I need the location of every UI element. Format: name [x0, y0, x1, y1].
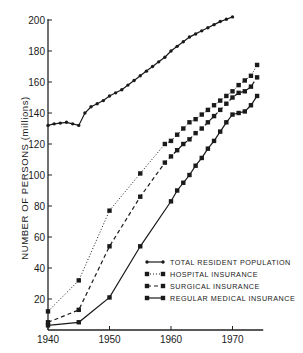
- data-point: [71, 122, 74, 125]
- data-point: [77, 124, 80, 127]
- data-point: [52, 122, 55, 125]
- data-point: [107, 244, 111, 248]
- data-point: [169, 49, 172, 52]
- data-point: [200, 126, 204, 130]
- data-point: [206, 108, 210, 112]
- data-point: [224, 102, 228, 106]
- data-point: [46, 124, 49, 127]
- data-point: [249, 103, 253, 107]
- data-point: [139, 74, 142, 77]
- data-point: [255, 63, 259, 67]
- data-point: [187, 137, 191, 141]
- data-point: [157, 60, 160, 63]
- data-point: [206, 146, 210, 150]
- y-axis-label: NUMBER OF PERSONS (millions): [19, 96, 30, 260]
- data-point: [249, 84, 253, 88]
- data-point: [46, 323, 50, 327]
- legend-marker: [161, 272, 165, 276]
- data-point: [175, 188, 179, 192]
- data-point: [77, 308, 81, 312]
- data-point: [200, 29, 203, 32]
- data-point: [193, 131, 197, 135]
- data-point: [107, 208, 111, 212]
- data-point: [151, 65, 154, 68]
- series-3: [46, 94, 259, 328]
- legend-label: REGULAR MEDICAL INSURANCE: [170, 294, 295, 303]
- data-point: [175, 45, 178, 48]
- data-point: [187, 120, 191, 124]
- data-point: [181, 181, 185, 185]
- data-point: [138, 195, 142, 199]
- data-point: [206, 120, 210, 124]
- legend-marker: [145, 272, 149, 276]
- data-point: [243, 78, 247, 82]
- data-point: [236, 111, 240, 115]
- legend-marker: [161, 296, 165, 300]
- legend-marker: [145, 284, 149, 288]
- y-tick-label: 200: [28, 15, 45, 26]
- data-point: [77, 278, 81, 282]
- legend-label: HOSPITAL INSURANCE: [170, 270, 258, 279]
- data-point: [114, 91, 117, 94]
- x-tick-label: 1960: [160, 334, 183, 345]
- data-point: [138, 244, 142, 248]
- data-point: [212, 23, 215, 26]
- data-point: [236, 91, 240, 95]
- chart: 2040608010012014016018020019401950196019…: [0, 0, 303, 353]
- data-point: [230, 112, 234, 116]
- data-point: [230, 95, 234, 99]
- y-tick-label: 80: [34, 201, 46, 212]
- series-lines: [46, 15, 259, 327]
- data-point: [206, 26, 209, 29]
- x-tick-label: 1950: [98, 334, 121, 345]
- data-point: [89, 105, 92, 108]
- data-point: [169, 154, 173, 158]
- data-point: [249, 74, 253, 78]
- y-tick-label: 60: [34, 232, 46, 243]
- legend-marker: [145, 260, 148, 263]
- data-point: [231, 15, 234, 18]
- data-point: [200, 156, 204, 160]
- data-point: [96, 102, 99, 105]
- data-point: [169, 139, 173, 143]
- data-point: [108, 94, 111, 97]
- data-point: [163, 56, 166, 59]
- data-point: [175, 133, 179, 137]
- data-point: [243, 89, 247, 93]
- y-tick-label: 100: [28, 170, 45, 181]
- data-point: [224, 120, 228, 124]
- data-point: [169, 199, 173, 203]
- data-point: [200, 112, 204, 116]
- data-point: [236, 83, 240, 87]
- data-point: [212, 139, 216, 143]
- data-point: [83, 111, 86, 114]
- data-point: [212, 114, 216, 118]
- data-point: [187, 173, 191, 177]
- legend-marker: [161, 284, 165, 288]
- y-tick-label: 160: [28, 77, 45, 88]
- data-point: [163, 142, 167, 146]
- x-tick-label: 1940: [37, 334, 60, 345]
- data-point: [193, 164, 197, 168]
- legend: TOTAL RESIDENT POPULATIONHOSPITAL INSURA…: [145, 258, 295, 303]
- data-point: [243, 109, 247, 113]
- data-point: [219, 20, 222, 23]
- data-point: [218, 129, 222, 133]
- data-point: [46, 309, 50, 313]
- data-point: [218, 108, 222, 112]
- data-point: [181, 142, 185, 146]
- data-point: [175, 148, 179, 152]
- y-tick-label: 20: [34, 294, 46, 305]
- series-line: [48, 17, 233, 126]
- legend-label: SURGICAL INSURANCE: [170, 282, 260, 291]
- y-tick-label: 120: [28, 139, 45, 150]
- legend-marker: [145, 296, 149, 300]
- y-tick-label: 140: [28, 108, 45, 119]
- data-point: [138, 171, 142, 175]
- data-point: [59, 121, 62, 124]
- y-tick-label: 40: [34, 263, 46, 274]
- legend-marker: [161, 260, 164, 263]
- data-point: [194, 32, 197, 35]
- data-point: [120, 88, 123, 91]
- data-point: [77, 320, 81, 324]
